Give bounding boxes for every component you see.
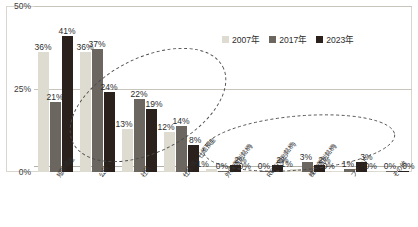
bar-value-label: 24%	[100, 82, 117, 92]
bar[interactable]: 36%	[80, 52, 91, 172]
bar-slot: 0%	[218, 6, 229, 172]
x-label-cell: 株式(個別銘柄)	[286, 173, 328, 227]
legend-item[interactable]: 2007年	[222, 33, 260, 45]
bar[interactable]: 37%	[92, 49, 103, 172]
bar[interactable]: 24%	[104, 92, 115, 172]
bar-group: 36%21%41%	[34, 6, 76, 172]
bar-slot: 3%	[302, 6, 313, 172]
bar-value-label: 3%	[300, 152, 312, 162]
legend-swatch-icon	[316, 36, 323, 43]
bar[interactable]: 13%	[122, 129, 133, 172]
bar[interactable]: 1%	[206, 169, 217, 172]
bar-slot: 24%	[104, 6, 115, 172]
x-label-cell: その他	[370, 173, 412, 227]
bar-slot: 36%	[80, 6, 91, 172]
legend-item[interactable]: 2017年	[269, 33, 307, 45]
bar-slot: 36%	[38, 6, 49, 172]
bar-slot: 3%	[356, 6, 367, 172]
x-label-cell: 外債(個別銘柄)	[202, 173, 244, 227]
legend-swatch-icon	[269, 36, 276, 43]
x-label-cell: REIT(個別銘柄)	[244, 173, 286, 227]
bar-group: 36%37%24%	[76, 6, 118, 172]
bar-slot: 0%	[260, 6, 271, 172]
bar-slot: 1%	[344, 6, 355, 172]
bar-slot: 0%	[398, 6, 409, 172]
bar-value-label: 8%	[189, 135, 201, 145]
bar-value-label: 1%	[342, 159, 354, 169]
bar-slot: 2%	[230, 6, 241, 172]
y-axis: 50% 25% 0%	[0, 0, 31, 166]
plot-area: 36%21%41%36%37%24%13%22%19%12%14%8%1%0%2…	[34, 6, 412, 172]
x-axis-labels: 短期資産公債社債仕組債・仕組預金外債(個別銘柄)REIT(個別銘柄)株式(個別銘…	[34, 173, 412, 227]
legend-swatch-icon	[222, 36, 229, 43]
y-tick-25: 25%	[1, 85, 31, 94]
bar[interactable]: 19%	[146, 109, 157, 172]
y-tick-0: 0%	[1, 168, 31, 177]
bar[interactable]: 1%	[290, 169, 301, 172]
bar-group: 12%14%8%	[160, 6, 202, 172]
x-label-cell: 公債	[76, 173, 118, 227]
bar-slot: 2%	[314, 6, 325, 172]
x-label-cell: 仕組債・仕組預金	[160, 173, 202, 227]
bar-slot: 41%	[62, 6, 73, 172]
legend: 2007年2017年2023年	[222, 33, 354, 45]
x-label-cell: 短期資産	[34, 173, 76, 227]
bar-group: 0%0%0%	[370, 6, 412, 172]
bar[interactable]: 21%	[50, 102, 61, 172]
legend-item[interactable]: 2023年	[316, 33, 354, 45]
bar-value-label: 13%	[115, 119, 132, 129]
bar-group: 13%22%19%	[118, 6, 160, 172]
bar-chart: 50% 25% 0% 36%21%41%36%37%24%13%22%19%12…	[0, 0, 418, 227]
legend-label: 2007年	[232, 33, 260, 45]
bar-groups: 36%21%41%36%37%24%13%22%19%12%14%8%1%0%2…	[34, 6, 412, 172]
y-tick-50: 50%	[1, 2, 31, 11]
bar-slot: 14%	[176, 6, 187, 172]
bar-slot: 8%	[188, 6, 199, 172]
bar-value-label: 41%	[58, 26, 75, 36]
legend-label: 2017年	[279, 33, 307, 45]
bar-slot: 19%	[146, 6, 157, 172]
bar[interactable]: 14%	[176, 126, 187, 172]
x-label-cell: 社債	[118, 173, 160, 227]
bar[interactable]: 0%	[374, 171, 385, 173]
bar[interactable]: 22%	[134, 99, 145, 172]
bar[interactable]: 0%	[332, 171, 343, 173]
bar[interactable]: 12%	[164, 132, 175, 172]
bar[interactable]: 0%	[248, 171, 259, 173]
bar-slot: 2%	[272, 6, 283, 172]
bar[interactable]: 41%	[62, 36, 73, 172]
bar-slot: 12%	[164, 6, 175, 172]
bar-slot: 22%	[134, 6, 145, 172]
bar-slot: 0%	[374, 6, 385, 172]
legend-label: 2023年	[326, 33, 354, 45]
bar[interactable]: 36%	[38, 52, 49, 172]
bar-slot: 0%	[386, 6, 397, 172]
x-label-cell: ファンド	[328, 173, 370, 227]
